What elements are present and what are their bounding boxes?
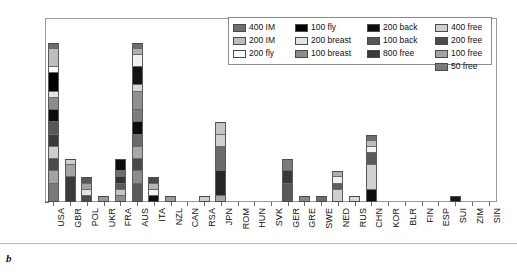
legend-swatch (295, 24, 308, 32)
x-tick-mark (53, 202, 54, 206)
bar-segment (132, 122, 143, 134)
legend-item[interactable]: 100 fly (295, 21, 367, 34)
legend-swatch (367, 50, 380, 58)
bar-segment (48, 159, 59, 171)
x-tick-mark (422, 202, 423, 206)
bar-segment (48, 147, 59, 159)
legend-swatch (233, 50, 246, 58)
legend-swatch (367, 37, 380, 45)
x-tick-mark (371, 202, 372, 206)
legend-label: 100 fly (311, 23, 336, 32)
bar-segment (132, 67, 143, 85)
legend-swatch (367, 24, 380, 32)
x-tick-mark (87, 202, 88, 206)
legend-label: 200 free (451, 36, 482, 45)
bar-stack[interactable] (115, 159, 126, 202)
x-tick-mark (455, 202, 456, 206)
bar-segment (132, 171, 143, 183)
bar-segment (132, 110, 143, 122)
legend-item[interactable]: 50 free (435, 60, 491, 73)
legend-item[interactable]: 400 free (435, 21, 491, 34)
x-tick-mark (154, 202, 155, 206)
bar-segment (132, 135, 143, 147)
legend-label: 200 fly (249, 49, 274, 58)
x-tick-label: ITA (158, 208, 167, 222)
bar-segment (282, 159, 293, 171)
legend-item[interactable]: 100 back (367, 34, 435, 47)
legend-item[interactable]: 800 free (367, 47, 435, 60)
bar-segment (48, 184, 59, 202)
bar-segment (215, 147, 226, 172)
x-tick-label: ESP (442, 208, 451, 226)
legend-item[interactable]: 400 IM (233, 21, 295, 34)
bar-segment (48, 73, 59, 91)
bar-stack[interactable] (366, 135, 377, 202)
x-tick-label: SIN (493, 208, 502, 223)
legend-swatch (435, 24, 448, 32)
x-tick-mark (288, 202, 289, 206)
bar-stack[interactable] (48, 43, 59, 202)
x-tick-label: JPN (225, 208, 234, 225)
legend-label: 100 breast (311, 49, 351, 58)
bar-segment (132, 55, 143, 67)
legend-swatch (295, 50, 308, 58)
bar-segment (65, 165, 76, 177)
x-tick-mark (321, 202, 322, 206)
bar-stack[interactable] (148, 177, 159, 202)
legend: 400 IM200 IM200 fly100 fly200 breast100 … (228, 17, 492, 65)
x-tick-mark (238, 202, 239, 206)
bar-segment (366, 165, 377, 190)
bar-segment (282, 184, 293, 202)
x-tick-mark (388, 202, 389, 206)
bar-segment (65, 177, 76, 202)
legend-item[interactable]: 100 breast (295, 47, 367, 60)
x-tick-label: AUS (141, 208, 150, 227)
bar-segment (48, 49, 59, 67)
x-tick-mark (338, 202, 339, 206)
bar-segment (215, 171, 226, 196)
legend-swatch (435, 50, 448, 58)
bar-segment (48, 110, 59, 122)
bar-stack[interactable] (332, 171, 343, 202)
bar-stack[interactable] (65, 159, 76, 202)
x-tick-label: FIN (426, 208, 435, 223)
x-tick-label: BLR (409, 208, 418, 226)
y-tick-mark (45, 202, 49, 203)
legend-item[interactable]: 200 back (367, 21, 435, 34)
x-tick-label: POL (91, 208, 100, 226)
legend-swatch (233, 24, 246, 32)
x-tick-label: SUI (459, 208, 468, 223)
bar-segment (132, 184, 143, 202)
legend-item[interactable]: 100 free (435, 47, 491, 60)
legend-swatch (233, 37, 246, 45)
x-tick-label: KOR (392, 208, 401, 228)
bar-segment (215, 122, 226, 134)
legend-swatch (435, 37, 448, 45)
x-tick-label: FRA (124, 208, 133, 226)
bar-segment (48, 171, 59, 183)
legend-item[interactable]: 200 fly (233, 47, 295, 60)
bar-segment (48, 98, 59, 110)
x-tick-label: GRE (308, 208, 317, 228)
legend-item[interactable]: 200 free (435, 34, 491, 47)
x-tick-label: NED (342, 208, 351, 227)
x-tick-label: GER (292, 208, 301, 228)
bar-stack[interactable] (132, 43, 143, 202)
y-axis: 051015202530 (0, 0, 45, 210)
x-tick-label: GBR (74, 208, 83, 228)
x-tick-mark (254, 202, 255, 206)
x-tick-mark (221, 202, 222, 206)
legend-label: 200 breast (311, 36, 351, 45)
legend-swatch (295, 37, 308, 45)
bar-stack[interactable] (81, 177, 92, 202)
legend-item[interactable]: 200 IM (233, 34, 295, 47)
legend-label: 400 free (451, 23, 482, 32)
x-tick-mark (355, 202, 356, 206)
bar-stack[interactable] (215, 122, 226, 202)
x-tick-label: CAN (191, 208, 200, 227)
legend-label: 200 IM (249, 36, 275, 45)
x-tick-label: RSA (208, 208, 217, 227)
legend-label: 100 free (451, 49, 482, 58)
bar-stack[interactable] (282, 159, 293, 202)
legend-item[interactable]: 200 breast (295, 34, 367, 47)
